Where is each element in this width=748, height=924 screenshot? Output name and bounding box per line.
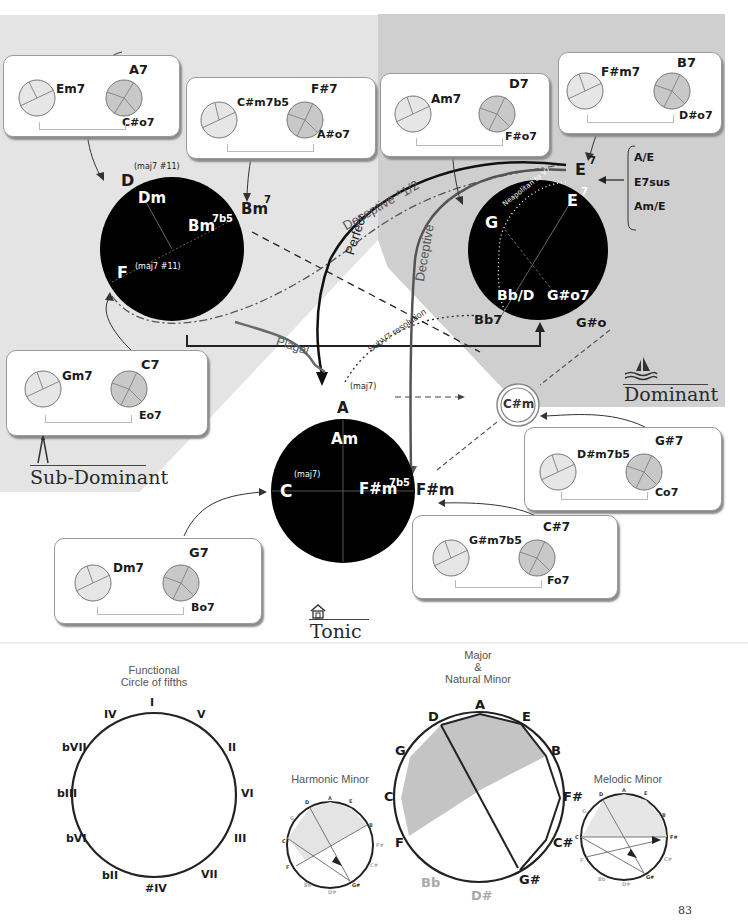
chord-box-g7: Dm7 G7 Bo7: [54, 538, 262, 624]
note-label: C: [282, 838, 286, 844]
major-natural-minor-circle: [394, 712, 564, 882]
note-label: F: [580, 857, 583, 863]
subdominant-inner-top: Dm: [138, 189, 166, 207]
note-label: F: [286, 864, 289, 870]
dominant-outer-top: E: [575, 160, 586, 179]
minor-chord-label: D#m7b5: [577, 448, 630, 461]
dominant-chord-label: G#7: [655, 434, 683, 448]
chord-box-a7: Em7 A7 C#o7: [3, 55, 180, 137]
substitution-bracket: [455, 580, 542, 588]
substitution-bracket: [561, 492, 648, 500]
page-number: 83: [678, 904, 692, 917]
dominant-chord-wheel-icon: [477, 94, 517, 134]
note-label: D: [599, 791, 603, 797]
dominant-chord-wheel-icon: [652, 71, 692, 111]
dominant-chord-label: D7: [509, 76, 529, 91]
note-label: B: [369, 822, 373, 828]
minor-chord-wheel-icon: [23, 369, 63, 409]
dominant-alternative: A/E: [634, 151, 654, 164]
dominant-outer-bottom-left: Bb7: [474, 312, 502, 327]
dominant-inner-top-sup: 7: [581, 186, 588, 197]
dim-chord-label: C#o7: [122, 116, 155, 129]
substitution-bracket: [39, 122, 126, 130]
note-label: F: [395, 835, 404, 850]
chord-box-gs7: D#m7b5 G#7 Co7: [524, 427, 722, 511]
tonic-outer-top: A: [337, 399, 349, 417]
note-label: A: [622, 787, 626, 793]
subdominant-outer-top: D: [121, 171, 134, 190]
minor-chord-label: Dm7: [113, 561, 144, 575]
dominant-chord-wheel-icon: [161, 563, 201, 603]
tonic-inner-top: Am: [331, 430, 358, 448]
note-label: D: [305, 799, 309, 805]
subdominant-inner-left-sup: (maj7 #11): [135, 262, 181, 271]
minor-chord-wheel-icon: [565, 71, 605, 111]
dominant-chord-label: B7: [677, 55, 696, 70]
house-icon: [309, 603, 327, 619]
substitution-bracket: [227, 144, 314, 152]
subdominant-outer-top-sup: (maj7 #11): [134, 162, 180, 171]
note-label: D#: [328, 889, 336, 895]
dominant-inner-left: G: [485, 213, 498, 232]
note-label: C#: [553, 835, 573, 850]
minor-chord-wheel-icon: [199, 100, 239, 140]
note-label: C#: [370, 862, 378, 868]
dominant-chord-label: C#7: [543, 520, 570, 534]
dominant-chord-wheel-icon: [104, 78, 144, 118]
note-label: A: [328, 795, 332, 801]
note-label: C: [575, 834, 579, 840]
note-label: A: [475, 697, 485, 712]
tonic-inner-left-sup: (maj7): [294, 470, 320, 479]
note-label: C: [384, 789, 394, 804]
subdominant-outer-right-sup: 7: [264, 194, 271, 205]
dominant-alternative: Am/E: [634, 200, 666, 213]
note-label: F#: [376, 842, 384, 848]
degree-label: I: [150, 696, 154, 709]
minor-chord-label: Em7: [56, 82, 85, 96]
functional-circle-title: Functional Circle of fifths: [104, 664, 204, 688]
harmonic-minor-title: Harmonic Minor: [285, 773, 375, 785]
compass-icon: [36, 435, 50, 465]
dim-chord-label: Fo7: [547, 574, 569, 587]
degree-label: II: [228, 741, 236, 754]
dim-chord-label: A#o7: [317, 128, 350, 141]
note-label: E: [644, 790, 647, 796]
degree-label: IV: [104, 708, 117, 721]
subdominant-inner-right-sup: 7b5: [212, 213, 233, 224]
dominant-chord-label: C7: [141, 357, 160, 372]
sailboat-icon: [623, 355, 659, 383]
note-label: G#: [519, 872, 541, 887]
dominant-inner-bottom-right: G#o7: [547, 287, 590, 303]
dim-chord-label: Eo7: [139, 409, 162, 422]
chord-box-d7: Am7 D7 F#o7: [380, 73, 550, 157]
degree-label: bII: [102, 869, 118, 882]
note-label: E: [349, 798, 352, 804]
minor-chord-label: C#m7b5: [237, 96, 289, 109]
degree-label: bVII: [62, 741, 87, 754]
substitution-bracket: [97, 607, 184, 615]
chord-box-b7: F#m7 B7 D#o7: [558, 52, 722, 134]
tonic-outer-right: F#m: [416, 481, 454, 499]
chord-box-fs7: C#m7b5 F#7 A#o7: [186, 77, 376, 159]
note-label: Bb: [598, 876, 605, 882]
subdominant-inner-left: F: [117, 263, 128, 282]
note-label-faded: D#: [471, 888, 493, 903]
minor-chord-wheel-icon: [73, 563, 113, 603]
degree-label: bVI: [66, 832, 86, 845]
dominant-chord-label: G7: [189, 545, 209, 560]
degree-label: #IV: [145, 882, 167, 895]
note-label: G#: [352, 882, 360, 888]
minor-chord-label: F#m7: [601, 65, 640, 79]
note-label: F#: [670, 834, 678, 840]
dominant-inner-top: E: [567, 191, 578, 210]
minor-chord-wheel-icon: [17, 78, 57, 118]
tonic-inner-right-sup: 7b5: [389, 477, 410, 488]
note-label: G: [290, 815, 294, 821]
substitution-bracket: [416, 138, 503, 146]
note-label: E: [522, 709, 531, 724]
dim-chord-label: Co7: [655, 486, 678, 499]
note-label: B: [662, 812, 666, 818]
dim-chord-label: D#o7: [679, 109, 713, 122]
note-label: D: [428, 709, 439, 724]
minor-chord-wheel-icon: [393, 94, 433, 134]
